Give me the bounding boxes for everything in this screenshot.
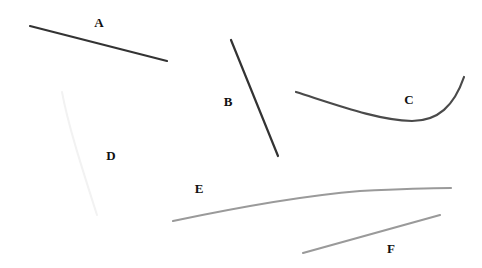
figure-canvas: A B C D E F [0, 0, 482, 268]
curve-label-d: D [106, 149, 115, 162]
curves-svg [0, 0, 482, 268]
curve-label-f: F [387, 242, 395, 255]
curve-label-e: E [195, 182, 204, 195]
curve-label-c: C [404, 93, 413, 106]
curve-label-a: A [94, 16, 103, 29]
curve-label-b: B [224, 95, 233, 108]
